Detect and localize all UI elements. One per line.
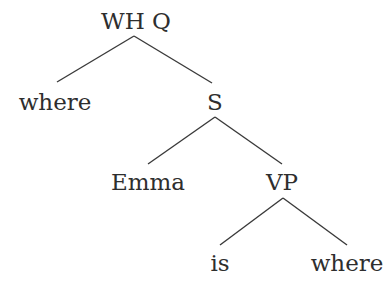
edge-whq-s [134,36,212,83]
tree-edges [57,36,347,245]
edge-whq-where1 [57,36,134,82]
edge-s-vp [215,117,282,164]
node-where-trace: where [311,250,384,276]
edge-vp-where2 [283,198,347,245]
node-vp: VP [265,169,298,195]
syntax-tree-diagram: WH Q where S Emma VP is where [0,0,389,285]
edge-s-emma [148,117,215,164]
node-s: S [207,89,223,115]
node-wh-q: WH Q [101,8,171,34]
node-is: is [210,250,229,276]
node-where-fronted: where [19,89,92,115]
node-emma: Emma [111,169,185,195]
edge-vp-is [220,198,283,245]
